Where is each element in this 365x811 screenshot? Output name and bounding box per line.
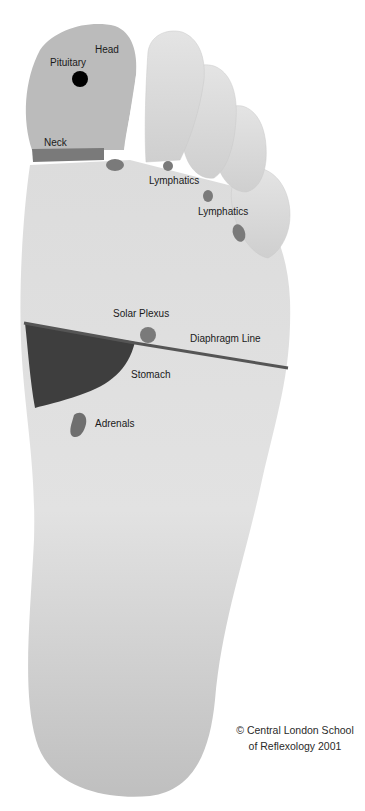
solar-plexus-point (140, 327, 156, 343)
lymphatics-marker-2 (163, 161, 173, 171)
copyright-line-2: of Reflexology 2001 (225, 738, 365, 754)
label-solar-plexus: Solar Plexus (113, 308, 169, 320)
label-lymphatics-1: Lymphatics (149, 175, 199, 187)
head-zone (26, 24, 136, 150)
label-diaphragm-line: Diaphragm Line (190, 333, 261, 345)
neck-zone (32, 148, 104, 162)
lymphatics-marker-1 (106, 159, 124, 171)
label-adrenals: Adrenals (95, 418, 134, 430)
label-stomach: Stomach (131, 369, 170, 381)
pituitary-point (72, 71, 88, 87)
copyright-line-1: © Central London School (225, 722, 365, 738)
label-lymphatics-2: Lymphatics (198, 206, 248, 218)
foot-sole (20, 160, 290, 797)
foot-diagram (0, 0, 365, 811)
copyright-notice: © Central London School of Reflexology 2… (225, 722, 365, 754)
lymphatics-marker-3 (203, 190, 213, 202)
label-head: Head (95, 44, 119, 56)
label-pituitary: Pituitary (50, 57, 86, 69)
label-neck: Neck (44, 137, 67, 149)
